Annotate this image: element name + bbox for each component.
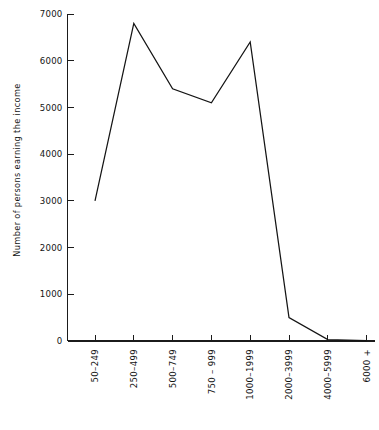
plot-area: 01000200030004000500060007000 50–249250–… bbox=[0, 0, 379, 430]
y-axis-tick-labels: 01000200030004000500060007000 bbox=[40, 9, 63, 346]
y-tick-label: 7000 bbox=[40, 9, 63, 19]
y-tick-label: 5000 bbox=[40, 103, 63, 113]
y-tick-label: 2000 bbox=[40, 243, 63, 253]
x-tick-label: 2000–3999 bbox=[284, 349, 294, 400]
y-tick-label: 4000 bbox=[40, 149, 63, 159]
data-series-line bbox=[95, 23, 367, 340]
y-tick-label: 6000 bbox=[40, 56, 63, 66]
y-axis-ticks bbox=[68, 14, 74, 341]
x-tick-label: 4000–5999 bbox=[323, 349, 333, 400]
x-tick-label: 500–749 bbox=[168, 349, 178, 388]
x-tick-label: 1000–1999 bbox=[245, 349, 255, 400]
y-tick-label: 3000 bbox=[40, 196, 63, 206]
x-tick-label: 50–249 bbox=[90, 349, 100, 382]
x-tick-label: 6000 + bbox=[362, 349, 372, 383]
income-distribution-line-chart: Number of persons earning the income 010… bbox=[0, 0, 379, 430]
y-tick-label: 1000 bbox=[40, 289, 63, 299]
x-axis-tick-labels: 50–249250–499500–749750 – 9991000–199920… bbox=[90, 349, 372, 400]
x-tick-label: 750 – 999 bbox=[207, 349, 217, 394]
y-tick-label: 0 bbox=[57, 336, 63, 346]
x-tick-label: 250–499 bbox=[129, 349, 139, 388]
